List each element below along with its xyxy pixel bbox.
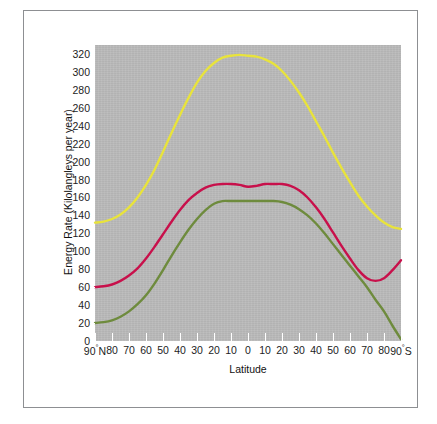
x-axis-tick-label: 50 <box>327 344 339 356</box>
x-axis-tick-label: 60 <box>140 344 152 356</box>
x-axis-tick-label: 10 <box>259 344 271 356</box>
x-axis-tick-label: 50 <box>157 344 169 356</box>
x-axis-tick-mark <box>367 333 368 341</box>
x-axis-tick-label: 0 <box>245 344 251 356</box>
series-line-top-of-atmosphere-solar-radiation <box>95 55 401 229</box>
y-axis-tick-mark <box>90 215 95 216</box>
y-axis-tick-mark <box>90 144 95 145</box>
y-axis-tick-mark <box>90 197 95 198</box>
y-axis-tick-mark <box>90 108 95 109</box>
x-axis-tick-mark <box>299 333 300 341</box>
y-axis-tick-mark <box>90 72 95 73</box>
y-axis-tick-mark <box>90 54 95 55</box>
x-axis-tick-mark <box>350 333 351 341</box>
y-axis-tick-mark <box>90 233 95 234</box>
x-axis-tick-label: 30 <box>191 344 203 356</box>
x-axis-tick-label: 70 <box>123 344 135 356</box>
x-axis-tick-mark <box>163 333 164 341</box>
y-axis-tick-mark <box>90 251 95 252</box>
x-axis-tick-label: 40 <box>174 344 186 356</box>
x-axis-tick-label: 10 <box>225 344 237 356</box>
x-axis-tick-label: 30 <box>293 344 305 356</box>
figure-root: 3203002802602402202001801601401201008060… <box>0 0 437 424</box>
x-axis-tick-label: 70 <box>361 344 373 356</box>
x-axis-tick-mark <box>248 333 249 341</box>
chart-curves <box>95 45 401 341</box>
y-axis-label: Energy Rate (Kilolangleys per year) <box>62 77 74 307</box>
x-axis-tick-mark <box>316 333 317 341</box>
x-axis-tick-label: 20 <box>276 344 288 356</box>
x-axis-tick-mark <box>384 333 385 341</box>
y-axis-tick-mark <box>90 269 95 270</box>
x-axis-label: Latitude <box>95 363 401 375</box>
x-axis-tick-mark <box>146 333 147 341</box>
x-axis-tick-mark <box>265 333 266 341</box>
x-axis-tick-mark <box>401 333 402 341</box>
x-axis-tick-mark <box>282 333 283 341</box>
y-axis-tick-mark <box>90 287 95 288</box>
y-axis-tick-mark <box>90 305 95 306</box>
x-axis-tick-mark <box>129 333 130 341</box>
x-axis-tick-mark <box>333 333 334 341</box>
series-line-outgoing-longwave-radiation <box>95 201 401 339</box>
y-axis-tick-mark <box>90 162 95 163</box>
x-axis-tick-labels: 90°N80706050403020100102030405060708090°… <box>0 344 437 360</box>
y-axis-tick-mark <box>90 90 95 91</box>
x-axis-tick-label: 80 <box>378 344 390 356</box>
y-axis-tick-mark <box>90 341 95 342</box>
x-axis-tick-label: 90°N <box>84 344 106 357</box>
y-axis-tick-mark <box>90 323 95 324</box>
x-axis-tick-mark <box>95 333 96 341</box>
y-axis-tick-label: 320 <box>56 49 90 59</box>
y-axis-tick-label: 300 <box>56 67 90 77</box>
x-axis-tick-mark <box>214 333 215 341</box>
x-axis-tick-mark <box>197 333 198 341</box>
y-axis-label-wrapper: Energy Rate (Kilolangleys per year) <box>40 0 41 424</box>
x-axis-tick-label: 80 <box>106 344 118 356</box>
x-axis-tick-label: 60 <box>344 344 356 356</box>
y-axis-tick-label: 20 <box>56 318 90 328</box>
x-axis-tick-mark <box>231 333 232 341</box>
y-axis-tick-mark <box>90 180 95 181</box>
x-axis-tick-label: 20 <box>208 344 220 356</box>
x-axis-tick-label: 90°S <box>390 344 412 357</box>
x-axis-tick-mark <box>180 333 181 341</box>
x-axis-tick-mark <box>112 333 113 341</box>
y-axis-tick-mark <box>90 126 95 127</box>
x-axis-tick-label: 40 <box>310 344 322 356</box>
